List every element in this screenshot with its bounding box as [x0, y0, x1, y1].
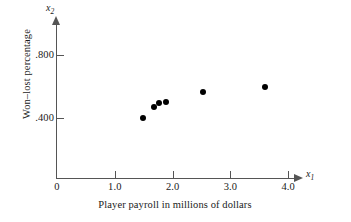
x-axis-tick-label: 0: [42, 181, 72, 193]
data-point: [140, 115, 146, 121]
x-axis-tick: [173, 171, 174, 178]
y-axis-tick-label-wrap: .800: [12, 50, 54, 61]
x-axis-tick-label: 1.0: [100, 181, 130, 193]
y-axis-tick-label: .400: [18, 113, 54, 124]
scatter-plot-figure: x2 x1 Won–lost percentage Player payroll…: [0, 0, 351, 222]
y-axis-tick-label: .800: [18, 50, 54, 61]
x-axis-tick-label: 3.0: [215, 181, 245, 193]
data-point: [151, 104, 157, 110]
data-point: [262, 84, 268, 90]
data-point: [156, 100, 162, 106]
x-axis-tick: [115, 171, 116, 178]
y-axis-tick-label-wrap: .400: [12, 113, 54, 124]
x-axis-tick-label: 4.0: [273, 181, 303, 193]
data-point: [200, 89, 206, 95]
x-axis-tick: [288, 171, 289, 178]
x-axis-tick-label: 2.0: [158, 181, 188, 193]
x-axis-tick: [230, 171, 231, 178]
y-axis-tick: [57, 118, 64, 119]
y-axis-tick: [57, 55, 64, 56]
plot-area: .800.40001.02.03.04.0: [0, 0, 351, 222]
data-point: [163, 99, 169, 105]
